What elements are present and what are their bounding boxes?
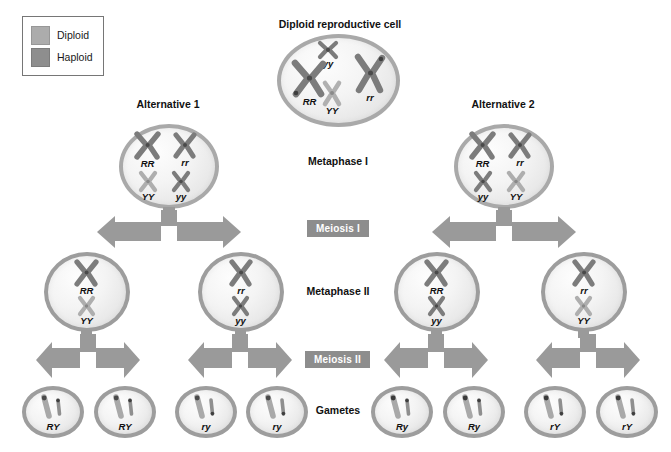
legend-label-diploid: Diploid: [57, 29, 89, 41]
chromosome-alt1-RR: RR: [134, 133, 161, 169]
legend-item-haploid: Haploid: [31, 46, 103, 68]
gamete-label: RY: [46, 422, 59, 432]
cell-gamete-2: RY: [94, 386, 156, 438]
chromosome-m2c2-bottom: yy: [231, 297, 250, 326]
stage-badge-meiosis-1: Meiosis I: [307, 220, 369, 237]
chromosome-label: yy: [431, 316, 442, 326]
cell-diploid-reproductive: yy RR rr YY: [277, 34, 400, 127]
chromosome-label: RR: [141, 159, 155, 169]
chromosome-x-glyph: [353, 55, 387, 93]
arrow-meiosis2-cell3: [382, 334, 492, 386]
chromosome-parent-rr: rr: [353, 55, 387, 103]
chromosome-label: RR: [430, 286, 444, 296]
cell-metaphase1-alternative-1: RR rr YY yy: [119, 124, 219, 209]
chromosome-label: yy: [478, 192, 489, 202]
connector-m2-cell4: [578, 330, 589, 338]
chromosome-label: rr: [181, 158, 188, 168]
gamete-label: rY: [622, 422, 632, 432]
cell-gamete-4: ry: [246, 386, 308, 438]
gamete-label: ry: [202, 422, 211, 432]
chromosome-label: rr: [366, 93, 373, 103]
legend-item-diploid: Diploid: [31, 24, 103, 46]
cell-metaphase2-4: rr YY: [541, 252, 627, 332]
chromosome-label: RR: [80, 286, 94, 296]
heading-source-cell: Diploid reproductive cell: [255, 18, 425, 30]
chromosome-alt2-RR: RR: [469, 133, 496, 169]
chromosome-m2c1-bottom: YY: [77, 297, 96, 326]
chromosome-label: YY: [510, 192, 523, 202]
cell-gamete-3: ry: [175, 386, 237, 438]
chromosome-label: rr: [237, 286, 244, 296]
chromosome-m2c4-top: rr: [572, 261, 596, 296]
chromosome-label: YY: [80, 316, 93, 326]
cell-gamete-7: rY: [524, 386, 586, 438]
heading-alternative-1: Alternative 1: [113, 98, 223, 110]
chromosome-rod-pair-glyph: [460, 394, 488, 421]
chromosome-rod-pair-glyph: [388, 394, 416, 421]
chromosome-x-glyph: [508, 134, 532, 158]
chromosome-gamete-1: RY: [39, 394, 67, 432]
chromosome-m2c1-top: RR: [74, 261, 99, 296]
chromosome-x-glyph: [506, 172, 526, 192]
stage-label-metaphase-2: Metaphase II: [283, 285, 393, 297]
chromosome-x-glyph: [473, 172, 493, 192]
cell-metaphase2-2: rr yy: [198, 252, 284, 332]
chromosome-rod-pair-glyph: [541, 394, 569, 421]
chromosome-rod-pair-glyph: [192, 394, 220, 421]
chromosome-rod-pair-glyph: [263, 394, 291, 421]
chromosome-gamete-5: Ry: [388, 394, 416, 432]
chromosome-rod-pair-glyph: [39, 394, 67, 421]
arrow-meiosis2-cell1: [34, 334, 144, 386]
fork-arrow-icon: [93, 210, 245, 258]
cell-gamete-6: Ry: [443, 386, 505, 438]
cell-metaphase2-3: RR yy: [394, 252, 480, 332]
chromosome-alt2-rr: rr: [508, 134, 532, 168]
chromosome-x-glyph: [173, 134, 197, 158]
chromosome-alt1-rr: rr: [173, 134, 197, 168]
chromosome-rod-pair-glyph: [613, 394, 641, 421]
chromosome-label: YY: [142, 192, 155, 202]
chromosome-x-glyph: [469, 133, 496, 159]
chromosome-alt2-YY: YY: [506, 172, 526, 202]
chromosome-gamete-8: rY: [613, 394, 641, 432]
gamete-label: Ry: [468, 422, 480, 432]
chromosome-x-glyph: [138, 172, 158, 192]
legend: Diploid Haploid: [22, 16, 104, 76]
gamete-label: ry: [273, 422, 282, 432]
connector-m2-cell3: [431, 330, 442, 338]
chromosome-label: rr: [580, 286, 587, 296]
chromosome-x-glyph: [77, 297, 96, 316]
connector-alt1-metaphase1: [163, 207, 175, 215]
gamete-label: rY: [550, 422, 560, 432]
chromosome-alt1-YY: YY: [138, 172, 158, 202]
connector-m2-cell1: [81, 330, 92, 338]
chromosome-label: YY: [326, 106, 339, 116]
chromosome-label: RR: [303, 97, 317, 107]
fork-arrow-icon: [34, 334, 144, 386]
chromosome-alt1-yy: yy: [171, 172, 191, 202]
cell-gamete-8: rY: [596, 386, 658, 438]
fork-arrow-icon: [534, 334, 644, 386]
chromosome-gamete-4: ry: [263, 394, 291, 432]
arrow-meiosis1-alt1: [93, 210, 245, 258]
fork-arrow-icon: [382, 334, 492, 386]
legend-label-haploid: Haploid: [57, 51, 93, 63]
arrow-meiosis1-alt2: [428, 210, 580, 258]
gamete-label: Ry: [396, 422, 408, 432]
chromosome-label: rr: [516, 158, 523, 168]
cell-gamete-1: RY: [22, 386, 84, 438]
stage-badge-meiosis-2: Meiosis II: [305, 351, 370, 368]
legend-swatch-haploid: [31, 48, 50, 67]
fork-arrow-icon: [186, 334, 296, 386]
chromosome-x-glyph: [574, 297, 593, 316]
chromosome-label: yy: [176, 192, 187, 202]
cell-gamete-5: Ry: [371, 386, 433, 438]
chromosome-x-glyph: [424, 261, 449, 286]
chromosome-x-glyph: [572, 261, 596, 286]
chromosome-gamete-6: Ry: [460, 394, 488, 432]
chromosome-alt2-yy: yy: [473, 172, 493, 202]
chromosome-label: YY: [577, 316, 590, 326]
chromosome-gamete-3: ry: [192, 394, 220, 432]
cell-metaphase2-1: RR YY: [44, 252, 130, 332]
chromosome-x-glyph: [427, 297, 446, 316]
